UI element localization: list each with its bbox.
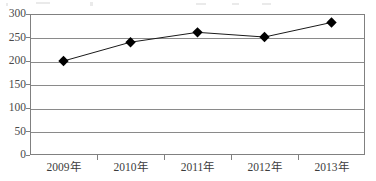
y-tick-label: 200 — [0, 55, 26, 67]
line-chart: 050100150200250300 2009年2010年2011年2012年2… — [0, 0, 376, 181]
data-point-marker — [259, 32, 269, 42]
x-tick-label: 2011年 — [181, 160, 215, 174]
x-tick-label: 2009年 — [47, 160, 81, 174]
scan-artifact — [232, 3, 239, 5]
x-axis: 2009年2010年2011年2012年2013年 — [30, 160, 365, 178]
scan-artifact — [90, 2, 93, 6]
x-tick-label: 2010年 — [114, 160, 148, 174]
scan-artifact — [262, 3, 271, 5]
y-tick-label: 100 — [0, 102, 26, 114]
y-tick-label: 300 — [0, 8, 26, 20]
y-tick-label: 150 — [0, 79, 26, 91]
scan-artifact — [6, 3, 8, 6]
y-tick-label: 50 — [0, 126, 26, 138]
data-point-marker — [58, 56, 68, 66]
y-tick-label: 250 — [0, 32, 26, 44]
x-tick-label: 2013年 — [315, 160, 349, 174]
x-tick-label: 2012年 — [248, 160, 282, 174]
scan-artifact — [196, 3, 206, 5]
data-point-marker — [125, 37, 135, 47]
scan-artifact — [36, 2, 50, 4]
y-axis: 050100150200250300 — [0, 14, 26, 155]
data-point-marker — [326, 17, 336, 27]
data-series — [30, 14, 365, 155]
y-tick-label: 0 — [0, 149, 26, 161]
data-point-marker — [192, 27, 202, 37]
